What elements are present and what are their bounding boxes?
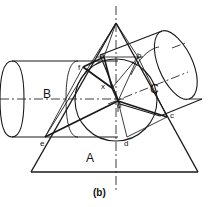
point-label-o: o <box>117 102 121 110</box>
cylinder-C-far-end-ellipse <box>154 31 197 100</box>
line-e-to-f <box>45 67 83 137</box>
triangle-prism-A <box>31 23 198 172</box>
region-label-c: C <box>150 83 159 95</box>
point-label-b: b <box>137 52 141 60</box>
point-label-d: d <box>124 140 128 148</box>
drawing-canvas <box>0 0 209 207</box>
figure-caption: (b) <box>93 188 106 198</box>
point-label-a: a <box>100 52 104 60</box>
region-label-a: A <box>86 152 94 164</box>
cylinder-B-far-end-arc-lower <box>66 99 78 137</box>
cylinder-C-lower-line <box>160 99 202 116</box>
point-label-e: e <box>40 140 44 148</box>
point-label-c: c <box>170 112 174 120</box>
line-apex-to-b <box>116 23 138 57</box>
point-label-x: x <box>101 83 105 91</box>
line-d-to-c-thin <box>127 117 167 137</box>
point-label-f: f <box>78 64 80 72</box>
engineering-drawing-figure: a b c d e f o x A B C (b) <box>0 0 209 207</box>
line-b-to-o <box>118 57 138 101</box>
region-label-b: B <box>43 88 51 100</box>
